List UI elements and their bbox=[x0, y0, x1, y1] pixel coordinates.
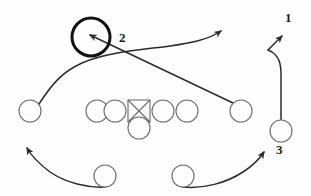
route-label-2: 2 bbox=[119, 31, 126, 44]
player-left-tackle[interactable] bbox=[104, 100, 126, 122]
player-left-wide-receiver[interactable] bbox=[19, 100, 41, 122]
player-right-guard[interactable] bbox=[176, 100, 198, 122]
route-left-back-sweep bbox=[27, 148, 105, 187]
route-right-back-sweep bbox=[183, 152, 264, 187]
player-right-tackle[interactable] bbox=[152, 100, 174, 122]
route-label-1: 1 bbox=[285, 11, 292, 24]
play-diagram-svg bbox=[0, 0, 311, 196]
player-right-slot-back-3[interactable] bbox=[270, 120, 292, 142]
offense-backfield-group bbox=[94, 117, 292, 187]
defender-2-marker[interactable] bbox=[72, 18, 110, 56]
player-right-back[interactable] bbox=[172, 165, 194, 187]
route-right-receiver-to-defender-2 bbox=[90, 35, 233, 103]
route-slot-back-3-up bbox=[268, 50, 281, 120]
player-left-back[interactable] bbox=[94, 165, 116, 187]
player-quarterback[interactable] bbox=[128, 117, 150, 139]
route-slot-back-3-break bbox=[268, 36, 282, 50]
player-right-wide-receiver[interactable] bbox=[230, 100, 252, 122]
play-diagram-canvas: 1 2 3 bbox=[0, 0, 311, 196]
route-left-receiver-deep bbox=[39, 31, 221, 104]
route-label-3: 3 bbox=[276, 143, 283, 156]
